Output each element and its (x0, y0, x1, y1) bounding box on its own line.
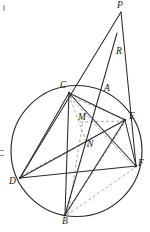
dashed-M-E (80, 121, 124, 122)
point-label-c: C (60, 81, 66, 91)
edge-mark-left-icon (0, 150, 4, 156)
point-label-n: N (87, 140, 93, 150)
point-label-a: A (104, 84, 110, 94)
segment-P-F (121, 12, 136, 166)
point-label-d: D (9, 177, 16, 187)
point-label-m: M (78, 113, 86, 123)
point-label-e: E (129, 112, 135, 122)
segment-C-D (20, 93, 69, 178)
dashed-B-M (68, 121, 83, 214)
geometry-canvas (0, 0, 150, 232)
vertex-dot-e (124, 119, 126, 121)
dashed-B-F (67, 167, 136, 215)
point-label-b: B (62, 217, 68, 227)
point-label-r: R (116, 47, 122, 57)
segment-C-B (65, 93, 69, 215)
corner-mark-topleft-icon (3, 5, 5, 11)
vertex-dot-c (68, 92, 70, 94)
point-label-p: P (117, 1, 123, 11)
vertex-dots-group (19, 92, 137, 216)
geometry-figure: PRCAMENDFB (0, 0, 150, 232)
segment-D-E (20, 120, 125, 178)
segment-E-B (65, 120, 125, 215)
vertex-dot-d (19, 177, 21, 179)
vertex-dot-f (135, 165, 137, 167)
point-label-f: F (138, 159, 144, 169)
